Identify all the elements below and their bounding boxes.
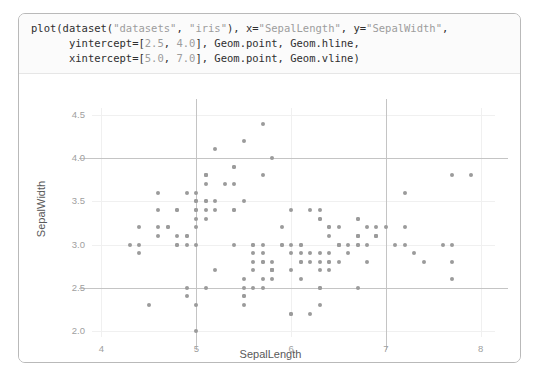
plot-panel xyxy=(92,108,495,337)
scatter-point xyxy=(166,225,170,229)
scatter-point xyxy=(137,225,141,229)
scatter-point xyxy=(261,251,265,255)
scatter-point xyxy=(299,260,303,264)
scatter-point xyxy=(327,268,331,272)
scatter-point xyxy=(251,251,255,255)
scatter-point xyxy=(308,251,312,255)
scatter-point xyxy=(403,225,407,229)
scatter-point xyxy=(327,234,331,238)
scatter-point xyxy=(384,225,388,229)
scatter-point xyxy=(356,286,360,290)
y-tick-label: 4.5 xyxy=(19,110,85,120)
scatter-point xyxy=(261,243,265,247)
scatter-point xyxy=(374,234,378,238)
scatter-point xyxy=(242,303,246,307)
scatter-point xyxy=(204,217,208,221)
gridline-horizontal xyxy=(92,245,495,246)
scatter-point xyxy=(251,260,255,264)
y-tick-label: 2.5 xyxy=(19,283,85,293)
scatter-point xyxy=(318,286,322,290)
scatter-point xyxy=(194,199,198,203)
gridline-vertical xyxy=(101,108,102,337)
scatter-point xyxy=(242,199,246,203)
y-tick-label: 4.0 xyxy=(19,153,85,163)
scatter-point xyxy=(185,191,189,195)
scatter-point xyxy=(232,243,236,247)
scatter-point xyxy=(318,303,322,307)
scatter-point xyxy=(327,260,331,264)
scatter-point xyxy=(261,277,265,281)
gridline-vertical xyxy=(291,108,292,337)
scatter-point xyxy=(270,156,274,160)
scatter-point xyxy=(365,243,369,247)
scatter-point xyxy=(346,251,350,255)
scatter-point xyxy=(422,260,426,264)
x-axis-title: SepalLength xyxy=(19,348,521,360)
scatter-point xyxy=(318,208,322,212)
plot-card: plot(dataset("datasets", "iris"), x="Sep… xyxy=(18,13,521,363)
code-block[interactable]: plot(dataset("datasets", "iris"), x="Sep… xyxy=(19,14,520,74)
scatter-point xyxy=(308,260,312,264)
scatter-point xyxy=(308,208,312,212)
scatter-point xyxy=(403,243,407,247)
scatter-point xyxy=(337,225,341,229)
y-axis-title: SepalWidth xyxy=(35,149,47,269)
scatter-point xyxy=(469,173,473,177)
scatter-point xyxy=(204,286,208,290)
scatter-point xyxy=(175,208,179,212)
scatter-point xyxy=(261,173,265,177)
scatter-point xyxy=(280,225,284,229)
scatter-point xyxy=(337,260,341,264)
code-text: plot(dataset("datasets", "iris"), x="Sep… xyxy=(31,21,520,66)
scatter-point xyxy=(261,260,265,264)
scatter-point xyxy=(346,243,350,247)
scatter-point xyxy=(232,208,236,212)
scatter-point xyxy=(270,260,274,264)
hline-intercept xyxy=(79,288,508,289)
scatter-point xyxy=(194,329,198,333)
scatter-point xyxy=(308,312,312,316)
scatter-point xyxy=(242,294,246,298)
scatter-point xyxy=(289,268,293,272)
scatter-point xyxy=(318,260,322,264)
scatter-point xyxy=(318,217,322,221)
scatter-point xyxy=(213,208,217,212)
scatter-point xyxy=(299,251,303,255)
scatter-point xyxy=(185,286,189,290)
scatter-point xyxy=(175,234,179,238)
scatter-point xyxy=(299,277,303,281)
scatter-point xyxy=(280,243,284,247)
chart-area: 2.02.53.03.54.04.5 45678 SepalLength Sep… xyxy=(19,75,521,363)
scatter-point xyxy=(393,243,397,247)
scatter-point xyxy=(356,217,360,221)
y-tick-label: 2.0 xyxy=(19,326,85,336)
scatter-point xyxy=(289,251,293,255)
scatter-point xyxy=(251,268,255,272)
scatter-point xyxy=(147,303,151,307)
scatter-point xyxy=(412,251,416,255)
scatter-point xyxy=(185,234,189,238)
scatter-point xyxy=(156,191,160,195)
scatter-point xyxy=(365,260,369,264)
scatter-point xyxy=(356,234,360,238)
scatter-point xyxy=(175,243,179,247)
scatter-point xyxy=(213,268,217,272)
scatter-point xyxy=(232,165,236,169)
scatter-point xyxy=(204,173,208,177)
scatter-point xyxy=(450,277,454,281)
scatter-point xyxy=(242,286,246,290)
scatter-point xyxy=(242,277,246,281)
scatter-point xyxy=(450,260,454,264)
scatter-point xyxy=(261,122,265,126)
scatter-point xyxy=(270,277,274,281)
scatter-point xyxy=(223,182,227,186)
scatter-point xyxy=(194,243,198,247)
scatter-point xyxy=(289,208,293,212)
gridline-horizontal xyxy=(92,201,495,202)
scatter-point xyxy=(156,234,160,238)
scatter-point xyxy=(289,243,293,247)
scatter-point xyxy=(204,208,208,212)
scatter-point xyxy=(185,243,189,247)
scatter-point xyxy=(204,199,208,203)
scatter-point xyxy=(441,243,445,247)
